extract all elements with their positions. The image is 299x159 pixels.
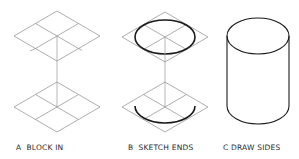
step-b-label: B SKETCH ENDS: [128, 143, 193, 152]
step-c-draw-sides-figure: [227, 18, 289, 124]
step-a-label: A BLOCK IN: [16, 143, 63, 152]
step-c-label: C DRAW SIDES: [223, 143, 280, 152]
cylinder-sketch-diagram: [0, 0, 299, 159]
step-a-block-in-figure: [14, 11, 100, 132]
step-b-sketch-ends-figure: [122, 12, 208, 132]
cylinder-top-ellipse: [227, 18, 289, 54]
cylinder-bottom-arc: [227, 106, 289, 124]
bottom-ellipse-arc: [135, 106, 195, 123]
